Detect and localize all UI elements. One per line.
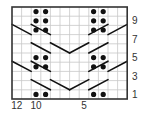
purl-dot-icon [43,27,48,32]
purl-dot-icon [43,9,48,14]
purl-dot-icon [43,64,48,69]
purl-dot-icon [91,64,96,69]
purl-dot-icon [33,64,38,69]
purl-dot-icon [33,9,38,14]
column-label: 12 [11,100,23,111]
column-label: 5 [81,100,87,111]
purl-dot-icon [101,9,106,14]
purl-dot-icon [33,27,38,32]
purl-dot-icon [101,55,106,60]
purl-dot-icon [91,92,96,97]
row-label: 5 [132,52,138,63]
row-label: 7 [132,34,138,45]
purl-dot-icon [101,64,106,69]
purl-dot-icon [91,18,96,23]
purl-dot-icon [33,55,38,60]
purl-dot-icon [101,18,106,23]
knitting-chart: 1210513579 [0,0,145,113]
purl-dot-icon [101,92,106,97]
purl-dot-icon [43,92,48,97]
purl-dot-icon [43,55,48,60]
row-label: 1 [132,89,138,100]
row-label: 3 [132,71,138,82]
column-label: 10 [30,100,42,111]
purl-dot-icon [91,27,96,32]
purl-dot-icon [43,18,48,23]
purl-dot-icon [33,92,38,97]
purl-dot-icon [33,18,38,23]
row-label: 9 [132,15,138,26]
purl-dot-icon [91,9,96,14]
purl-dot-icon [91,55,96,60]
purl-dot-icon [101,27,106,32]
